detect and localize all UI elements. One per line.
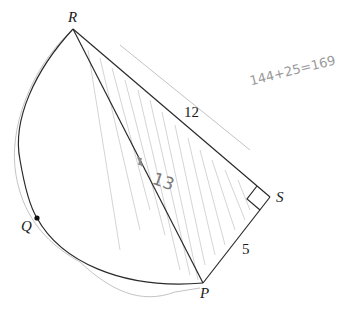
label-S: S [276, 189, 284, 205]
pencil-arc-trace [14, 32, 200, 297]
length-RS: 12 [184, 104, 199, 120]
label-R: R [67, 9, 77, 25]
handwritten-13: 13 [150, 168, 177, 194]
arc-RQP [18, 29, 203, 284]
geometry-figure: R S P Q 12 5 13 144+25=169 [0, 0, 343, 318]
segment-RP [73, 29, 203, 283]
label-Q: Q [21, 218, 32, 234]
handwritten-equation: 144+25=169 [248, 53, 337, 89]
segment-RS [73, 29, 270, 197]
point-Q-dot [34, 215, 39, 220]
length-SP: 5 [242, 241, 250, 257]
label-P: P [199, 285, 209, 301]
